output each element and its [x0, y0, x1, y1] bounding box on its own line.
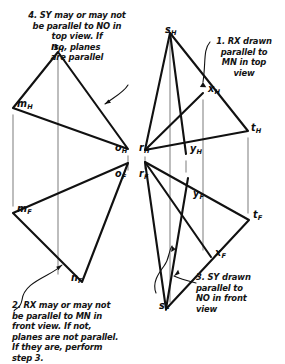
point-label-view-subscript: H	[144, 147, 150, 155]
leader-note-3b-arrow	[174, 270, 180, 276]
note-1: 1. RX drawn parallel to MN in top view	[206, 36, 282, 78]
point-label-base: s	[165, 24, 171, 35]
point-label-base: n	[71, 272, 78, 283]
point-label-base: s	[159, 300, 165, 311]
point-label-m-h: mH	[17, 98, 33, 109]
point-label-y-f: yF	[193, 188, 204, 199]
drawing-sheet: 4. SY may or may not be parallel to NO i…	[0, 0, 285, 364]
leader-note-1-arrow	[200, 82, 206, 87]
point-label-y-h: yH	[190, 143, 202, 154]
point-label-o-f: oF	[115, 168, 126, 179]
point-label-n-f: nF	[71, 272, 82, 283]
point-label-view-subscript: F	[165, 305, 170, 313]
point-label-view-subscript: H	[214, 88, 220, 96]
point-label-view-subscript: F	[122, 173, 127, 181]
point-label-r-h: rH	[139, 142, 149, 153]
point-label-x-f: xF	[215, 247, 226, 258]
point-label-view-subscript: F	[78, 277, 83, 285]
point-label-r-f: rF	[139, 168, 148, 179]
point-label-base: t	[251, 122, 256, 133]
point-label-view-subscript: F	[258, 214, 263, 222]
point-label-t-f: tF	[253, 209, 262, 220]
projection-lines-group	[13, 41, 248, 302]
point-label-view-subscript: H	[122, 147, 128, 155]
point-label-view-subscript: F	[27, 208, 32, 216]
point-label-base: o	[115, 142, 122, 153]
note-3: 3. SY drawn parallel to NO in front view	[196, 272, 280, 314]
point-label-m-f: mF	[17, 203, 32, 214]
point-label-view-subscript: F	[199, 193, 204, 201]
point-label-base: n	[51, 41, 58, 52]
point-label-base: m	[17, 203, 27, 214]
leader-lines-group	[14, 42, 210, 311]
note-2: 2. RX may or may not be parallel to MN i…	[12, 300, 160, 364]
point-label-view-subscript: H	[171, 29, 177, 37]
point-label-s-f: sF	[159, 300, 169, 311]
point-label-o-h: oH	[115, 142, 127, 153]
point-label-x-h: xH	[208, 83, 220, 94]
point-label-base: m	[17, 98, 27, 109]
point-label-view-subscript: H	[196, 148, 202, 156]
point-label-view-subscript: F	[221, 252, 226, 260]
point-label-view-subscript: H	[58, 46, 64, 54]
triangle-front-view-mno	[13, 163, 128, 282]
point-label-view-subscript: F	[144, 173, 149, 181]
note-4: 4. SY may or may not be parallel to NO i…	[17, 10, 137, 63]
point-label-view-subscript: H	[27, 103, 33, 111]
point-label-view-subscript: H	[256, 127, 262, 135]
point-label-t-h: tH	[251, 122, 261, 133]
point-label-base: t	[253, 209, 258, 220]
point-label-n-h: nH	[51, 41, 63, 52]
point-label-s-h: sH	[165, 24, 176, 35]
point-label-base: o	[115, 168, 122, 179]
